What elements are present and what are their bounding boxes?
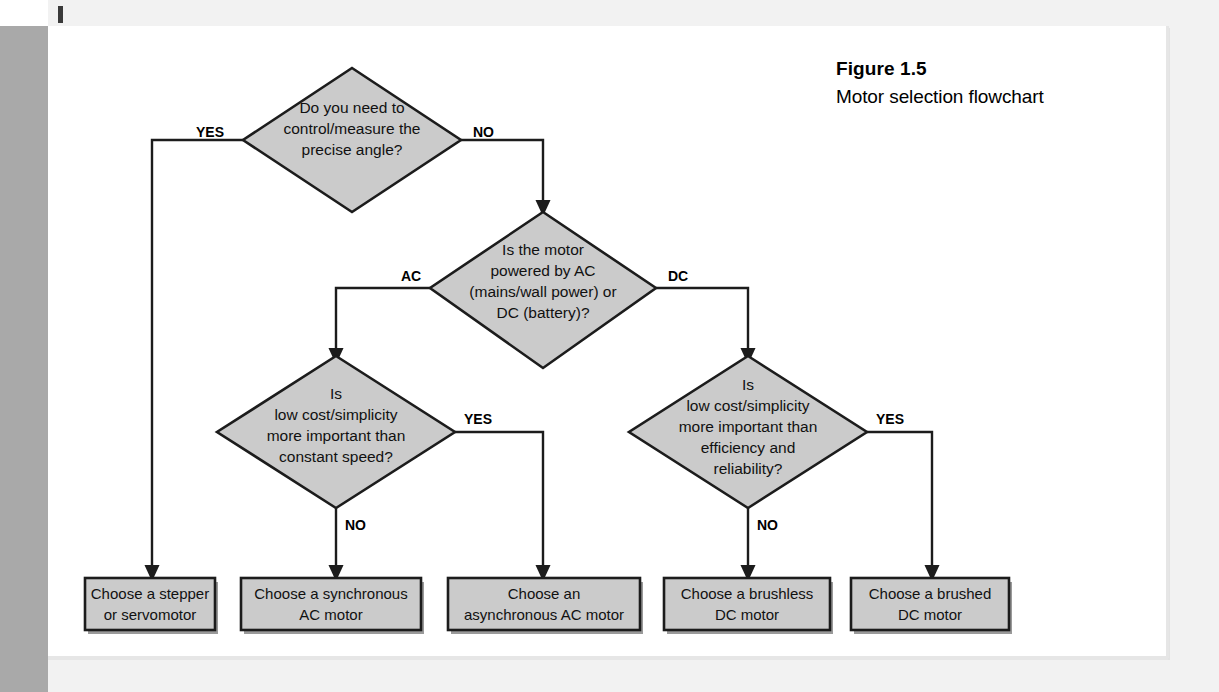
decision-node-cost-vs-constant-speed: Is low cost/simplicity more important th… xyxy=(217,356,455,508)
edge-d1-no-to-d2 xyxy=(461,140,543,208)
decision-node-cost-vs-efficiency: Is low cost/simplicity more important th… xyxy=(629,356,867,508)
result-node-stepper-or-servomotor: Choose a stepper or servomotor xyxy=(85,578,218,634)
edge-label-yes-precise-angle: YES xyxy=(196,124,224,140)
node-text-line: Do you need to xyxy=(299,99,404,116)
edge-label-no-constant-speed: NO xyxy=(345,517,366,533)
node-text-line: powered by AC xyxy=(490,262,595,279)
result-node-brushless-dc-motor: Choose a brushless DC motor xyxy=(664,578,833,634)
decision-node-precise-angle: Do you need to control/measure the preci… xyxy=(243,68,461,212)
node-text-line: precise angle? xyxy=(302,141,403,158)
node-text-line: low cost/simplicity xyxy=(274,406,397,423)
edge-d3-yes-to-box-asynchronous xyxy=(455,432,543,573)
box-text-line: Choose a brushless xyxy=(681,585,814,602)
decision-node-ac-or-dc: Is the motor powered by AC (mains/wall p… xyxy=(430,212,656,368)
result-node-asynchronous-ac-motor: Choose an asynchronous AC motor xyxy=(448,578,643,634)
box-text-line: Choose a stepper xyxy=(91,585,209,602)
node-text-line: (mains/wall power) or xyxy=(469,283,616,300)
edge-d1-yes-to-box-stepper xyxy=(152,140,243,573)
motor-selection-flowchart: Do you need to control/measure the preci… xyxy=(0,0,1219,692)
node-text-line: more important than xyxy=(679,418,818,435)
node-text-line: reliability? xyxy=(714,460,783,477)
edge-label-dc: DC xyxy=(668,268,688,284)
box-text-line: or servomotor xyxy=(104,606,197,623)
box-text-line: asynchronous AC motor xyxy=(464,606,624,623)
node-text-line: Is the motor xyxy=(502,241,584,258)
node-text-line: DC (battery)? xyxy=(496,304,589,321)
node-text-line: low cost/simplicity xyxy=(686,397,809,414)
result-node-brushed-dc-motor: Choose a brushed DC motor xyxy=(851,578,1012,634)
box-text-line: DC motor xyxy=(715,606,779,623)
diamond-shape xyxy=(243,68,461,212)
node-text-line: constant speed? xyxy=(279,448,393,465)
box-text-line: Choose a brushed xyxy=(869,585,992,602)
box-text-line: AC motor xyxy=(299,606,362,623)
node-text-line: control/measure the xyxy=(284,120,421,137)
edge-d2-dc-to-d4 xyxy=(656,288,748,356)
edge-label-yes-efficiency: YES xyxy=(876,411,904,427)
node-text-line: Is xyxy=(742,376,754,393)
edge-label-ac: AC xyxy=(401,268,421,284)
edge-d2-ac-to-d3 xyxy=(336,288,430,356)
box-text-line: DC motor xyxy=(898,606,962,623)
box-text-line: Choose a synchronous xyxy=(254,585,407,602)
edge-label-no-precise-angle: NO xyxy=(473,124,494,140)
edge-label-yes-constant-speed: YES xyxy=(464,411,492,427)
edge-label-no-efficiency: NO xyxy=(757,517,778,533)
node-text-line: efficiency and xyxy=(701,439,796,456)
result-node-synchronous-ac-motor: Choose a synchronous AC motor xyxy=(241,578,424,634)
node-text-line: more important than xyxy=(267,427,406,444)
box-text-line: Choose an xyxy=(508,585,581,602)
edge-d4-yes-to-box-brushed xyxy=(867,432,932,573)
node-text-line: Is xyxy=(330,385,342,402)
